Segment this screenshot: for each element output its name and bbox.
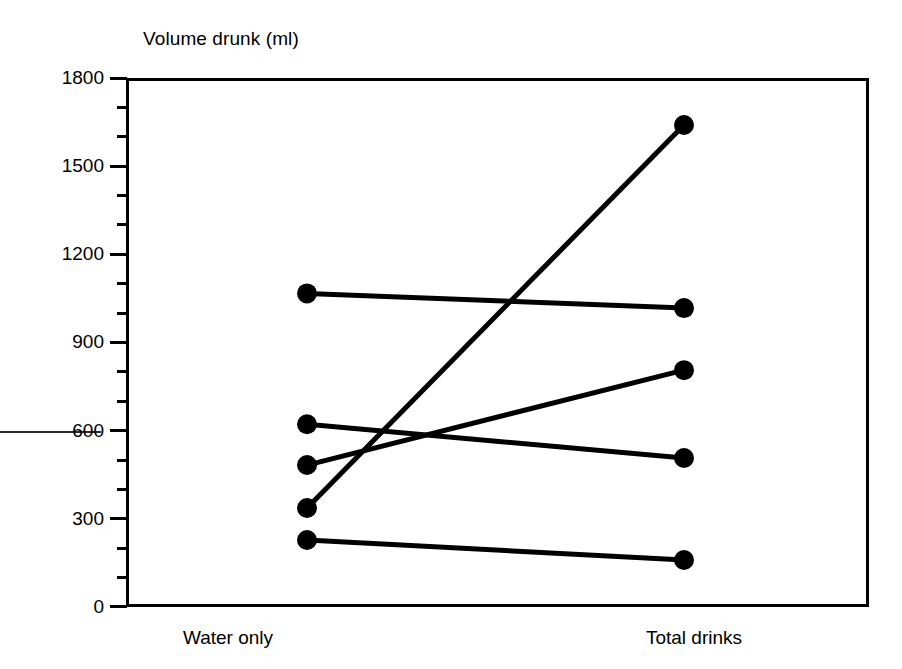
chart-container: Volume drunk (ml) 1800 1500 1200 900 600…	[0, 0, 902, 669]
y-minor-tick-500	[117, 459, 127, 462]
y-minor-tick-1000	[117, 312, 127, 315]
chart-title: Volume drunk (ml)	[143, 28, 299, 50]
y-minor-tick-1400	[117, 194, 127, 197]
y-tick-1200	[110, 253, 127, 256]
y-tick-900	[110, 341, 127, 344]
y-minor-tick-800	[117, 370, 127, 373]
x-axis-label-water-only: Water only	[183, 628, 273, 647]
y-minor-tick-1700	[117, 106, 127, 109]
y-axis-label-600: 600	[42, 421, 104, 440]
y-minor-tick-200	[117, 547, 127, 550]
y-minor-tick-1300	[117, 223, 127, 226]
y-axis-label-1200: 1200	[42, 244, 104, 263]
y-axis-label-0: 0	[42, 597, 104, 616]
y-tick-1800	[110, 77, 127, 80]
x-axis-label-total-drinks: Total drinks	[646, 628, 742, 647]
y-tick-600	[110, 429, 127, 432]
y-axis-label-900: 900	[42, 332, 104, 351]
y-minor-tick-1100	[117, 282, 127, 285]
y-minor-tick-1600	[117, 135, 127, 138]
y-axis-label-1800: 1800	[42, 68, 104, 87]
y-tick-300	[110, 517, 127, 520]
y-minor-tick-700	[117, 400, 127, 403]
y-minor-tick-400	[117, 488, 127, 491]
y-axis-label-300: 300	[42, 509, 104, 528]
plot-frame	[126, 78, 869, 607]
y-axis-label-1500: 1500	[42, 156, 104, 175]
y-minor-tick-100	[117, 576, 127, 579]
y-tick-0	[110, 605, 127, 608]
y-tick-1500	[110, 165, 127, 168]
